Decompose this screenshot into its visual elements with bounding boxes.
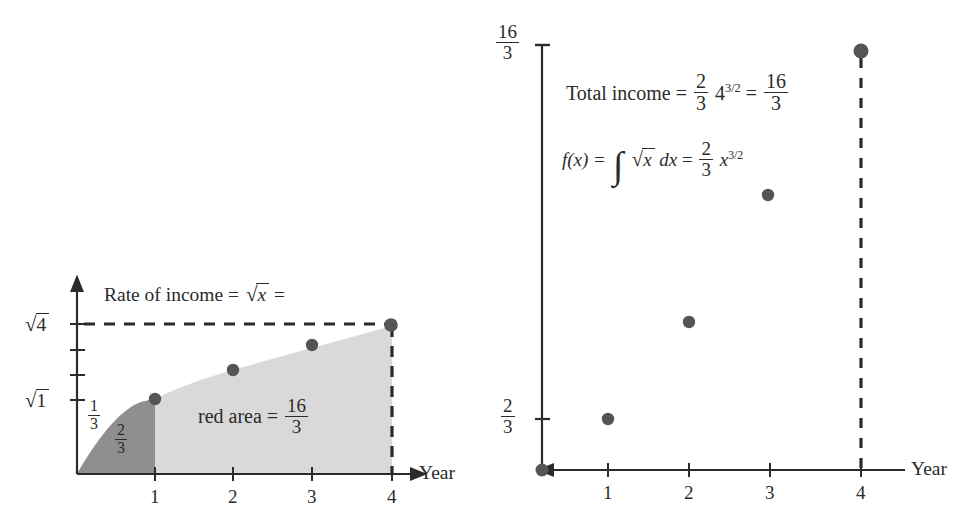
right-data-point-2 — [683, 316, 695, 328]
right-data-point-4 — [854, 44, 869, 59]
sqrt4-icon: √4 — [23, 313, 49, 335]
left-two-thirds-label: 2 3 — [113, 422, 129, 457]
total-result-num: 16 — [764, 71, 788, 92]
right-data-point-1 — [602, 413, 614, 425]
two-thirds-num: 2 — [115, 422, 127, 439]
integral-var: x — [720, 149, 728, 170]
integral-equals: = — [682, 149, 693, 170]
left-x-tick-label-2: 2 — [228, 487, 238, 506]
total-equals: = — [746, 82, 757, 104]
left-x-tick-label-4: 4 — [387, 487, 397, 506]
left-one-third-label: 1 3 — [86, 398, 102, 433]
integral-sign-icon: ∫ — [613, 156, 623, 175]
right-y-16-3-num: 16 — [496, 22, 519, 42]
sqrt1-icon: √1 — [23, 389, 49, 411]
right-y-2-3-num: 2 — [501, 396, 515, 416]
right-integral-equation: f(x) = ∫ √x dx = 2 3 x3/2 — [562, 139, 743, 180]
one-third-num: 1 — [88, 398, 100, 415]
title-prefix: Rate of income = — [104, 284, 239, 305]
right-data-point-3 — [762, 189, 774, 201]
area-frac-den: 3 — [285, 416, 308, 437]
right-x-tick-label-3: 3 — [765, 483, 775, 502]
total-result-den: 3 — [764, 92, 788, 114]
left-area-annotation: red area = 16 3 — [198, 396, 310, 437]
left-x-axis-label: Year — [419, 463, 455, 483]
left-chart-panel: Rate of income = √x = √4 √1 1 3 — [0, 0, 480, 531]
two-thirds-den: 3 — [115, 439, 127, 457]
one-third-den: 3 — [88, 415, 100, 433]
right-x-tick-label-4: 4 — [856, 483, 866, 502]
total-coef-num: 2 — [694, 71, 708, 92]
right-y-label-2-3: 2 3 — [499, 396, 517, 437]
left-data-point-1 — [149, 393, 161, 405]
right-y-2-3-den: 3 — [501, 416, 515, 437]
total-income-lhs: Total income = — [566, 82, 687, 104]
left-data-point-3 — [306, 339, 318, 351]
integral-coef-den: 3 — [699, 159, 713, 180]
left-chart-graphics — [0, 0, 480, 531]
integral-fx: f(x) = — [562, 149, 606, 170]
title-sqrt-icon: √x — [244, 283, 269, 305]
area-frac-num: 16 — [285, 396, 308, 416]
total-coef-den: 3 — [694, 92, 708, 114]
right-y-label-16-3: 16 3 — [494, 22, 521, 63]
right-x-tick-label-2: 2 — [684, 483, 694, 502]
right-chart-panel: 16 3 2 3 Total income = 2 3 43/2 = 16 3 — [480, 0, 957, 531]
sqrt1-radicand: 1 — [36, 389, 50, 411]
left-chart-title: Rate of income = √x = — [104, 283, 285, 305]
left-data-point-4 — [384, 318, 398, 332]
integral-sqrt-arg: x — [642, 148, 654, 169]
left-x-tick-label-3: 3 — [307, 487, 317, 506]
title-sqrt-arg: x — [256, 283, 269, 305]
right-y-16-3-den: 3 — [496, 42, 519, 63]
left-x-tick-label-1: 1 — [150, 487, 160, 506]
title-suffix: = — [274, 284, 285, 305]
integral-coef-num: 2 — [699, 139, 713, 159]
area-label-text: red area = — [198, 405, 278, 427]
integral-exponent: 3/2 — [728, 149, 743, 162]
right-data-point-0 — [536, 464, 549, 477]
total-exponent: 3/2 — [725, 81, 741, 95]
right-x-tick-label-1: 1 — [603, 483, 613, 502]
sqrt4-radicand: 4 — [36, 313, 50, 335]
left-data-point-2 — [227, 364, 239, 376]
integral-dx: dx — [659, 149, 677, 170]
right-x-axis-label: Year — [911, 459, 947, 479]
integral-sqrt-icon: √x — [630, 148, 655, 170]
total-base: 4 — [715, 82, 725, 104]
left-y-label-sqrt1: √1 — [23, 389, 49, 411]
right-total-income-equation: Total income = 2 3 43/2 = 16 3 — [566, 71, 790, 114]
left-y-label-sqrt4: √4 — [23, 313, 49, 335]
figure-root: Rate of income = √x = √4 √1 1 3 — [0, 0, 957, 531]
